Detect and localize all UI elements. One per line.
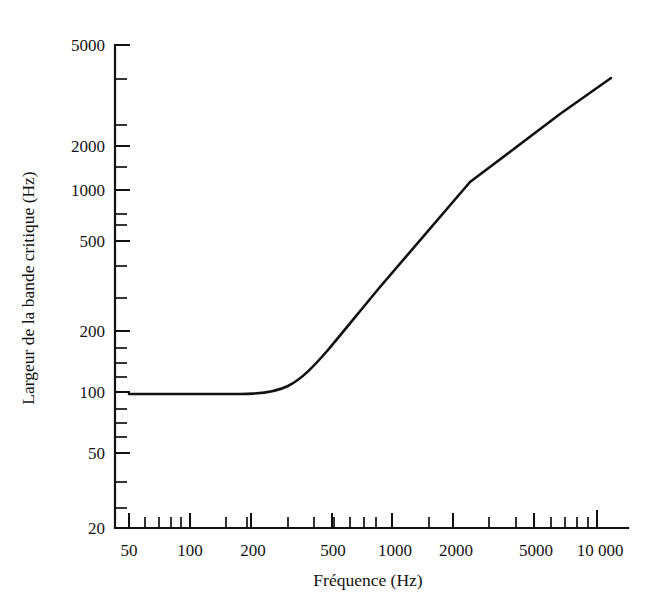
x-axis-tick-labels: 50 100 200 500 1000 2000 5000 10 000 — [121, 541, 624, 560]
x-tick-label: 50 — [121, 541, 138, 560]
y-tick-label: 1000 — [71, 181, 105, 200]
x-tick-label: 5000 — [519, 541, 553, 560]
y-axis-ticks — [115, 45, 130, 508]
x-tick-label: 100 — [177, 541, 203, 560]
y-tick-label: 500 — [80, 232, 106, 251]
x-axis-ticks — [129, 510, 597, 528]
critical-bandwidth-curve — [129, 78, 611, 394]
x-tick-label: 1000 — [378, 541, 412, 560]
y-tick-label: 100 — [80, 383, 106, 402]
y-tick-label: 2000 — [71, 137, 105, 156]
critical-bandwidth-chart: 5000 2000 1000 500 200 100 50 20 — [0, 0, 650, 601]
figure-page: 5000 2000 1000 500 200 100 50 20 — [0, 0, 650, 601]
x-tick-label: 500 — [320, 541, 346, 560]
x-tick-label: 200 — [240, 541, 266, 560]
x-axis-title: Fréquence (Hz) — [313, 570, 422, 590]
y-tick-label: 50 — [88, 444, 105, 463]
y-tick-label: 20 — [88, 519, 105, 538]
axes-group — [115, 45, 628, 528]
y-axis-title: Largeur de la bande critique (Hz) — [18, 171, 38, 405]
x-tick-label: 2000 — [439, 541, 473, 560]
y-tick-label: 5000 — [71, 36, 105, 55]
y-axis-tick-labels: 5000 2000 1000 500 200 100 50 20 — [71, 36, 105, 538]
x-tick-label: 10 000 — [577, 541, 624, 560]
y-tick-label: 200 — [80, 322, 106, 341]
